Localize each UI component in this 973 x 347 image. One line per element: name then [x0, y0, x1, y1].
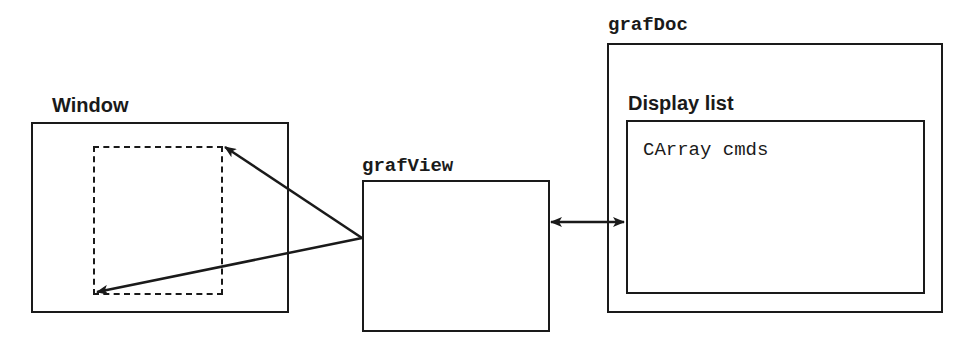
arrows-layer	[0, 0, 973, 347]
arrow-to-viewport-top	[225, 147, 362, 238]
arrow-to-viewport-bottom	[97, 238, 362, 292]
